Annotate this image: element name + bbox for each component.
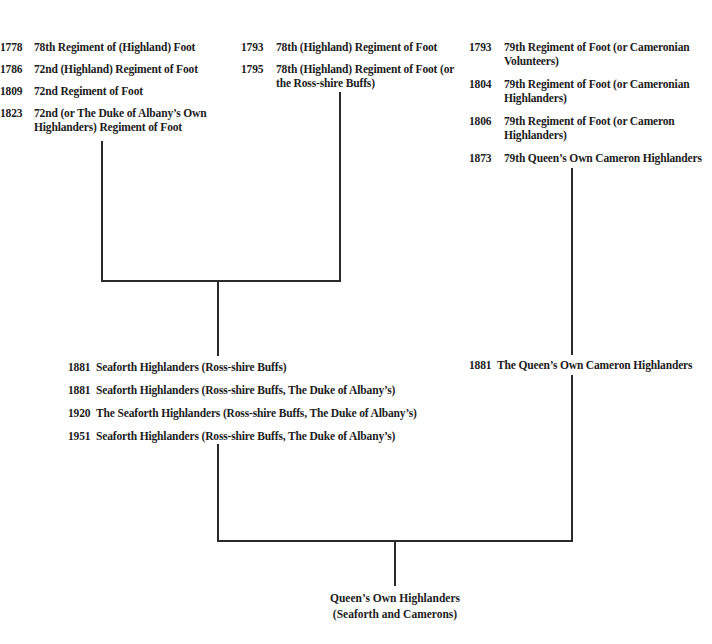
final-regiment-line1: Queen’s Own Highlanders (310, 590, 480, 606)
regiment-name: Seaforth Highlanders (Ross-shire Buffs, … (96, 383, 395, 398)
final-regiment-line2: (Seaforth and Camerons) (310, 606, 480, 622)
connector-col3-down (571, 168, 573, 355)
year: 1951 (68, 429, 90, 444)
year: 1881 (469, 358, 491, 373)
year: 1881 (68, 383, 90, 398)
regiment-name: 78th (Highland) Regiment of Foot (276, 40, 437, 55)
regiment-name-cont: Highlanders) (504, 128, 567, 143)
year: 1793 (241, 40, 263, 55)
connector-to-seaforth (217, 281, 219, 356)
connector-cameron-down (571, 375, 573, 541)
year: 1778 (0, 40, 22, 55)
regiment-name: 78th (Highland) Regiment of Foot (or (276, 62, 454, 77)
regiment-name: Seaforth Highlanders (Ross-shire Buffs) (96, 360, 286, 375)
connector-col1-down (101, 141, 103, 281)
regiment-name: 79th Regiment of Foot (or Cameron (504, 114, 675, 129)
regiment-name-cont: Volunteers) (504, 54, 559, 69)
year: 1804 (469, 77, 491, 92)
year: 1881 (68, 360, 90, 375)
year: 1809 (0, 84, 22, 99)
connector-seaforth-down (217, 444, 219, 541)
regiment-name: The Queen’s Own Cameron Highlanders (497, 358, 692, 373)
regiment-name: The Seaforth Highlanders (Ross-shire Buf… (96, 406, 417, 421)
final-regiment: Queen’s Own Highlanders (Seaforth and Ca… (310, 590, 480, 622)
year: 1873 (469, 151, 491, 166)
year: 1793 (469, 40, 491, 55)
year: 1823 (0, 106, 22, 121)
connector-top-merge (101, 280, 341, 282)
regiment-name: Seaforth Highlanders (Ross-shire Buffs, … (96, 429, 395, 444)
regiment-name: 79th Regiment of Foot (or Cameronian (504, 77, 690, 92)
year: 1920 (68, 406, 90, 421)
regiment-name: 79th Regiment of Foot (or Cameronian (504, 40, 690, 55)
regiment-name: 72nd (or The Duke of Albany’s Own (34, 106, 207, 121)
regiment-name-cont: Highlanders) (504, 91, 567, 106)
regiment-name: 72nd (Highland) Regiment of Foot (34, 62, 198, 77)
year: 1806 (469, 114, 491, 129)
regiment-name: 78th Regiment of (Highland) Foot (34, 40, 195, 55)
connector-col2-down (339, 92, 341, 281)
connector-to-final (394, 541, 396, 586)
regiment-name: 72nd Regiment of Foot (34, 84, 143, 99)
year: 1786 (0, 62, 22, 77)
year: 1795 (241, 62, 263, 77)
regiment-name-cont: Highlanders) Regiment of Foot (34, 120, 182, 135)
regiment-name-cont: the Ross-shire Buffs) (276, 76, 375, 91)
regiment-name: 79th Queen’s Own Cameron Highlanders (504, 151, 702, 166)
